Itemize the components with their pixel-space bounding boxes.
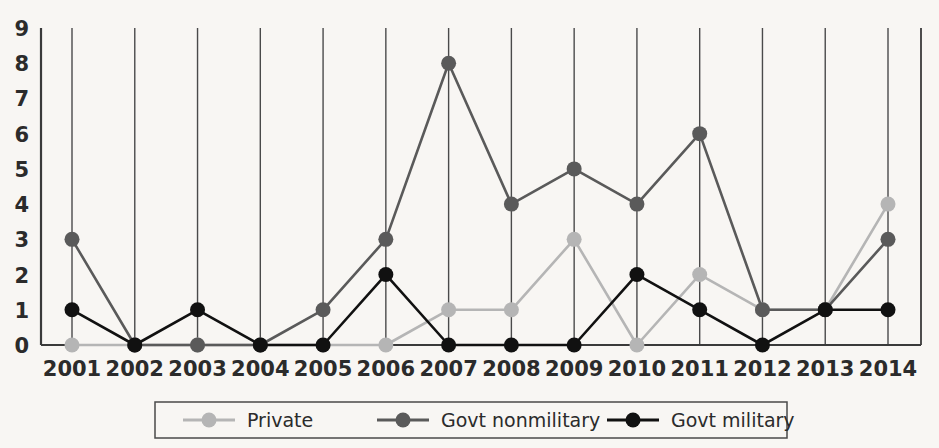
data-point: [190, 302, 205, 317]
data-point: [378, 267, 393, 282]
data-point: [818, 302, 833, 317]
y-tick-label: 9: [14, 17, 29, 41]
x-tick-label-2013: 2013: [796, 357, 854, 381]
x-tick-label-2009: 2009: [545, 357, 603, 381]
y-tick-label: 4: [14, 193, 29, 217]
data-point: [629, 267, 644, 282]
data-point: [881, 302, 896, 317]
data-point: [567, 338, 582, 353]
y-tick-label: 0: [14, 334, 29, 358]
y-tick-label: 2: [14, 264, 29, 288]
data-point: [316, 302, 331, 317]
data-point: [127, 338, 142, 353]
y-tick-label: 1: [14, 299, 29, 323]
data-point: [881, 232, 896, 247]
x-tick-label-2014: 2014: [859, 357, 917, 381]
data-point: [629, 338, 644, 353]
data-point: [504, 197, 519, 212]
chart-canvas: 0123456789 20012002200320042005200620072…: [0, 0, 939, 448]
line-chart-figure: 0123456789 20012002200320042005200620072…: [0, 0, 939, 448]
x-tick-label-2007: 2007: [419, 357, 477, 381]
y-tick-label: 6: [14, 123, 29, 147]
data-point: [755, 302, 770, 317]
legend-marker-icon: [202, 413, 217, 428]
data-point: [65, 338, 80, 353]
x-tick-label-2008: 2008: [482, 357, 540, 381]
x-tick-label-2004: 2004: [231, 357, 289, 381]
x-tick-label-2002: 2002: [106, 357, 164, 381]
y-tick-label: 5: [14, 158, 29, 182]
data-point: [504, 302, 519, 317]
data-point: [504, 338, 519, 353]
x-tick-label-2012: 2012: [733, 357, 791, 381]
y-tick-label: 3: [14, 228, 29, 252]
x-tick-label-2001: 2001: [43, 357, 101, 381]
data-point: [441, 302, 456, 317]
data-point: [378, 338, 393, 353]
data-point: [378, 232, 393, 247]
legend-label: Private: [247, 409, 313, 431]
data-point: [692, 126, 707, 141]
data-point: [755, 338, 770, 353]
x-tick-label-2005: 2005: [294, 357, 352, 381]
data-point: [692, 302, 707, 317]
legend-marker-icon: [626, 413, 641, 428]
data-point: [253, 338, 268, 353]
x-tick-label-2011: 2011: [670, 357, 728, 381]
x-tick-label-2010: 2010: [608, 357, 666, 381]
y-tick-label: 7: [14, 87, 29, 111]
x-tick-label-2006: 2006: [357, 357, 415, 381]
data-point: [316, 338, 331, 353]
x-tick-label-2003: 2003: [168, 357, 226, 381]
y-tick-label: 8: [14, 52, 29, 76]
data-point: [629, 197, 644, 212]
data-point: [881, 197, 896, 212]
data-point: [567, 232, 582, 247]
legend-label: Govt nonmilitary: [441, 409, 600, 431]
data-point: [65, 302, 80, 317]
data-point: [692, 267, 707, 282]
data-point: [441, 56, 456, 71]
data-point: [190, 338, 205, 353]
legend-label: Govt military: [671, 409, 795, 431]
legend-marker-icon: [396, 413, 411, 428]
data-point: [441, 338, 456, 353]
data-point: [65, 232, 80, 247]
data-point: [567, 161, 582, 176]
